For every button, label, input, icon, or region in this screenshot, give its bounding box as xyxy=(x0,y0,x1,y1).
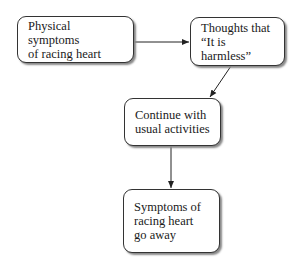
node-label: Symptoms of racing heart go away xyxy=(134,200,201,242)
arrow-thoughts-to-continue xyxy=(210,66,231,97)
node-label: Physical symptoms of racing heart xyxy=(28,19,123,61)
node-symptoms-go-away: Symptoms of racing heart go away xyxy=(123,189,220,253)
node-label: Continue with usual activities xyxy=(135,108,210,136)
node-continue-activities: Continue with usual activities xyxy=(124,98,221,146)
node-label: Thoughts that “It is harmless” xyxy=(201,21,274,63)
node-thoughts-harmless: Thoughts that “It is harmless” xyxy=(190,17,285,66)
node-physical-symptoms: Physical symptoms of racing heart xyxy=(17,16,134,63)
